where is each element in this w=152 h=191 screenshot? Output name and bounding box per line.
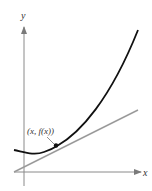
- tangent-diagram: y x (x, f(x)): [0, 0, 152, 191]
- x-axis-label: x: [142, 167, 148, 178]
- tangent-line: [14, 110, 138, 172]
- tangent-point: [54, 143, 58, 147]
- label-leader-line: [47, 137, 55, 145]
- point-label: (x, f(x)): [27, 126, 54, 136]
- y-axis-label: y: [20, 10, 26, 21]
